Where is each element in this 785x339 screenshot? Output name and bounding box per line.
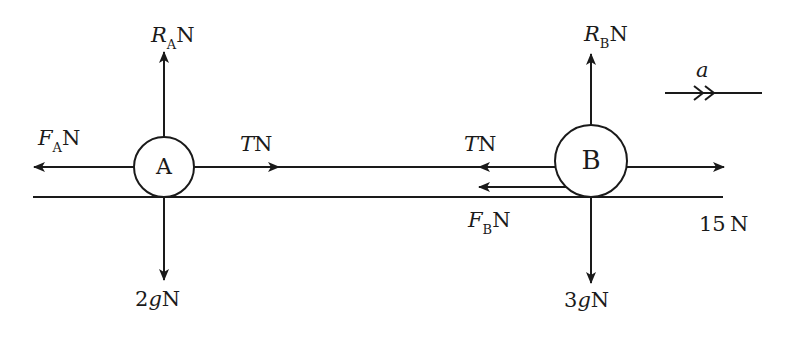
label-acceleration: a [696,60,709,81]
label-RA: RAN [151,25,195,46]
label-P: 15 N [699,214,748,235]
label-FB: FBN [468,210,511,231]
free-body-diagram: A B RAN FAN TN 2gN RBN TN FBN 15 N 3gN a [0,0,785,339]
label-RB: RBN [584,24,628,45]
label-WA: 2gN [135,289,180,310]
label-FA: FAN [38,128,80,149]
label-WB: 3gN [564,290,609,311]
diagram-graphics [0,0,785,339]
label-TB: TN [464,134,496,155]
label-TA: TN [240,134,272,155]
particle-B-label: B [571,147,611,173]
particle-A-label: A [149,156,179,178]
